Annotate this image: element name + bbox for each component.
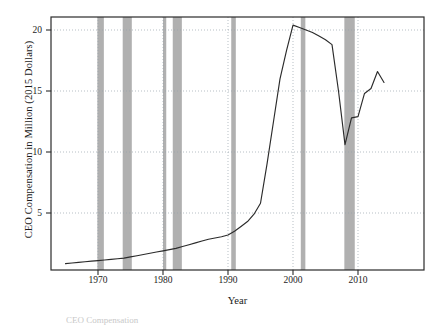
recession-band [344, 17, 354, 270]
gridlines-group [51, 17, 424, 270]
recession-band [301, 17, 306, 270]
recession-band [163, 17, 166, 270]
recession-band [173, 17, 182, 270]
recession-band [123, 17, 132, 270]
chart-plot [0, 0, 436, 326]
axis-ticks-group [46, 30, 358, 275]
figure: CEO Compensation in Million (2015 Dollar… [0, 0, 436, 326]
plot-frame [51, 17, 424, 270]
series-line [66, 25, 385, 264]
recession-bands-group [97, 17, 354, 270]
figure-caption: CEO Compensation [66, 315, 366, 326]
